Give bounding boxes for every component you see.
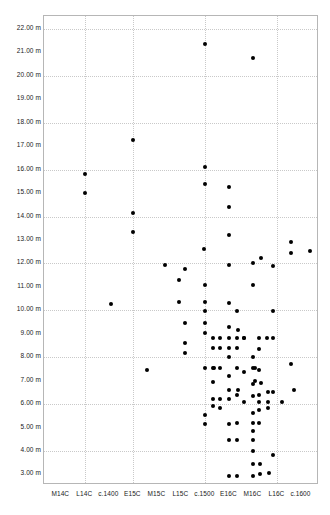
scatter-chart: 3.00 m4.00 m5.00 m6.00 m7.00 m8.00 m9.00… — [0, 0, 330, 515]
x-axis-tick-label: L14C — [76, 491, 92, 498]
x-axis-tick-label: E15C — [124, 491, 141, 498]
x-axis-tick-label: M16C — [244, 491, 262, 498]
x-axis-tick-label: L15C — [172, 491, 188, 498]
x-axis-tick-label: M14C — [51, 491, 69, 498]
x-axis-tick-label: M15C — [147, 491, 165, 498]
x-axis-tick-label: L16C — [268, 491, 284, 498]
x-axis-tick-label: c.1500 — [194, 491, 214, 498]
x-axis-tick-label: c.1400 — [98, 491, 118, 498]
x-axis-tick-label: c.1600 — [290, 491, 310, 498]
x-axis-tick-label: E16C — [220, 491, 237, 498]
x-axis: M14CL14Cc.1400E15CM15CL15Cc.1500E16CM16C… — [0, 0, 330, 515]
